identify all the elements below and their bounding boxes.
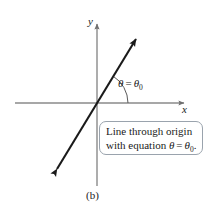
polar-line-diagram: y x θ=θ0 Line through origin with equati… bbox=[0, 0, 210, 217]
caption-period: . bbox=[194, 139, 197, 151]
angle-subscript-zero: 0 bbox=[139, 83, 143, 92]
angle-equals-sign: = bbox=[123, 77, 133, 89]
caption-box: Line through origin with equation θ=θ0. bbox=[99, 121, 203, 155]
panel-label: (b) bbox=[86, 190, 99, 201]
caption-line-2: with equation θ=θ0. bbox=[106, 138, 197, 157]
angle-label: θ=θ0 bbox=[118, 78, 143, 92]
caption-line-2-prefix: with equation bbox=[106, 139, 169, 151]
caption-equals-sign: = bbox=[174, 139, 184, 151]
caption-line-1: Line through origin bbox=[106, 124, 197, 138]
x-axis-label: x bbox=[182, 104, 187, 115]
diagram-canvas bbox=[0, 0, 210, 217]
y-axis-label: y bbox=[88, 16, 93, 27]
